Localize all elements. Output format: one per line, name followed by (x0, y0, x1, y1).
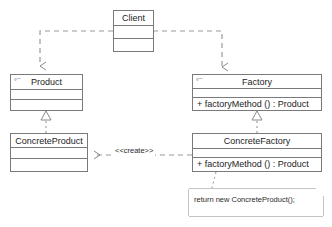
class-name-concreteproduct: ConcreteProduct (11, 134, 87, 148)
class-box-concretefactory[interactable]: ConcreteFactory + factoryMethod () : Pro… (192, 133, 322, 172)
note-text: return new ConcreteProduct(); (194, 195, 295, 205)
edge-note-anchor (212, 172, 216, 188)
edge-concretefactory-realizes-factory (252, 111, 262, 133)
class-name-factory: °¯ Factory (193, 75, 321, 89)
uml-diagram-canvas: Client °¯ Product °¯ Factory + factoryMe… (0, 0, 332, 227)
abstract-class-icon: °¯ (14, 78, 21, 85)
class-attributes-product (11, 90, 82, 100)
class-name-product: °¯ Product (11, 75, 82, 90)
class-name-client: Client (114, 11, 153, 26)
edge-client-to-product (40, 31, 113, 66)
stereotype-label-create: <<create>> (113, 146, 155, 156)
class-attributes-concreteproduct (11, 148, 87, 159)
note-box[interactable]: return new ConcreteProduct(); (189, 189, 323, 216)
class-box-concreteproduct[interactable]: ConcreteProduct (10, 133, 88, 172)
class-attributes-factory (193, 89, 321, 98)
edge-concreteproduct-realizes-product (41, 111, 51, 133)
class-box-factory[interactable]: °¯ Factory + factoryMethod () : Product (192, 74, 322, 111)
class-operations-client (114, 39, 153, 52)
class-operations-product (11, 100, 82, 110)
class-operation-concretefactory-factorymethod: + factoryMethod () : Product (193, 158, 321, 171)
class-operation-factory-factorymethod: + factoryMethod () : Product (193, 98, 321, 111)
class-attributes-client (114, 26, 153, 39)
class-box-client[interactable]: Client (113, 10, 154, 52)
class-name-concretefactory: ConcreteFactory (193, 134, 321, 149)
abstract-class-icon: °¯ (196, 78, 203, 85)
edge-client-to-factory (153, 31, 222, 67)
class-operations-concreteproduct (11, 159, 87, 171)
class-name-factory-label: Factory (242, 77, 272, 87)
class-name-product-label: Product (31, 77, 62, 87)
class-box-product[interactable]: °¯ Product (10, 74, 83, 111)
class-attributes-concretefactory (193, 149, 321, 158)
